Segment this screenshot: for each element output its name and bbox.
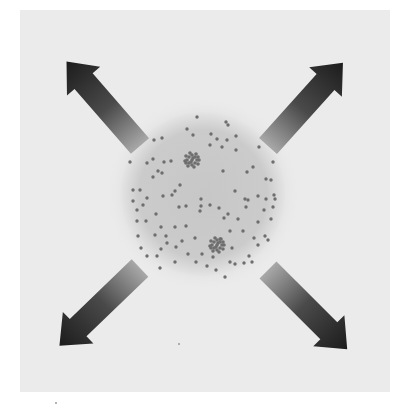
particle-dot	[161, 194, 164, 197]
particle-dot	[160, 136, 163, 139]
particle-dot	[139, 246, 142, 249]
particle-dot	[257, 145, 260, 148]
particle-dot	[195, 115, 198, 118]
particle-dot	[234, 134, 237, 137]
particle-dot	[194, 260, 197, 263]
particle-dot	[185, 127, 188, 130]
particle-dot	[199, 197, 202, 200]
particle-dot	[186, 252, 189, 255]
particle-dot	[159, 225, 162, 228]
particle-dot	[138, 188, 141, 191]
particle-dot	[184, 224, 187, 227]
particle-dot	[262, 208, 265, 211]
particle-dot	[145, 254, 148, 257]
particle-dot	[244, 205, 247, 208]
particle-dot	[135, 208, 138, 211]
particle-dot	[208, 143, 211, 146]
arrow-up-left-icon	[50, 47, 157, 160]
particle-dot	[264, 177, 267, 180]
particle-dot	[144, 219, 147, 222]
particle-dot	[136, 234, 139, 237]
stray-mark	[178, 343, 180, 345]
particle-dot	[180, 239, 183, 242]
particle-dot	[256, 194, 259, 197]
particle-dot	[264, 197, 267, 200]
particle-dot	[256, 220, 259, 223]
particle-dot	[217, 206, 220, 209]
particle-dot	[241, 229, 244, 232]
particle-dot	[141, 203, 144, 206]
particle-dot	[151, 175, 154, 178]
particle-dot	[243, 197, 246, 200]
stray-mark	[55, 402, 57, 404]
particle-dot	[169, 159, 172, 162]
particle-dot	[170, 193, 173, 196]
particle-dot	[228, 260, 231, 263]
particle-dot	[228, 229, 231, 232]
particle-dot	[209, 132, 212, 135]
particle-dot	[234, 148, 237, 151]
particle-dot	[173, 225, 176, 228]
expansion-diagram	[0, 0, 408, 408]
particle-dot	[250, 260, 253, 263]
particle-dot	[173, 189, 176, 192]
particle-dot	[153, 233, 156, 236]
particle-dot	[159, 247, 162, 250]
particle-dot	[272, 193, 275, 196]
particle-dot	[233, 262, 236, 265]
particle-dot	[205, 264, 208, 267]
particle-dot	[222, 216, 225, 219]
particle-dot	[173, 260, 176, 263]
particle-dot	[271, 205, 274, 208]
particle-dot	[184, 204, 187, 207]
particle-dot	[214, 268, 217, 271]
particle-dot	[247, 254, 250, 257]
particle-dot	[215, 137, 218, 140]
particle-dot	[128, 160, 131, 163]
particle-dot	[256, 243, 259, 246]
particle-dot	[145, 196, 148, 199]
particle-dot	[154, 212, 157, 215]
particle-dot	[230, 246, 233, 249]
particle-dot	[191, 133, 194, 136]
particle-dot	[155, 254, 158, 257]
particle-dot	[220, 145, 223, 148]
particle-dot	[266, 238, 269, 241]
arrow-down-right-icon	[252, 254, 362, 364]
particle-dot	[226, 212, 229, 215]
particle-dot	[199, 204, 202, 207]
particle-dot	[208, 203, 211, 206]
particle-dot	[177, 205, 180, 208]
particle-dot	[221, 169, 224, 172]
particle-dot	[131, 188, 134, 191]
particle-dot	[226, 123, 229, 126]
particle-dot	[269, 217, 272, 220]
particle-dot	[269, 178, 272, 181]
particle-dot	[178, 183, 181, 186]
particle-dot	[131, 199, 134, 202]
particle-dot	[252, 236, 255, 239]
particle-dot	[145, 161, 148, 164]
particle-dot	[193, 236, 196, 239]
particle-dot	[225, 138, 228, 141]
particle-dot	[246, 198, 249, 201]
particle-dot	[224, 120, 227, 123]
particle-dot	[211, 255, 214, 258]
particle-dot	[251, 165, 254, 168]
particle-dot	[242, 261, 245, 264]
particle-dot	[165, 241, 168, 244]
particle-dot	[158, 266, 161, 269]
particle-dot	[245, 170, 248, 173]
particle-dot	[151, 157, 154, 160]
particle-dot	[200, 252, 203, 255]
particle-dot	[162, 160, 165, 163]
particle-dot	[236, 217, 239, 220]
particle-dot	[273, 197, 276, 200]
particle-dot	[135, 219, 138, 222]
particle-dot	[198, 209, 201, 212]
particle-dot	[174, 245, 177, 248]
particle-dot	[233, 189, 236, 192]
particle-dot	[263, 234, 266, 237]
arrow-down-left-icon	[44, 252, 155, 361]
particle-dot	[271, 160, 274, 163]
